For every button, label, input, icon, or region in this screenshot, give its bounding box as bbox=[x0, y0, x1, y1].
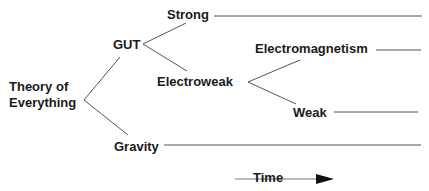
edge-electroweak-electromagnetism bbox=[248, 60, 300, 82]
label-gravity: Gravity bbox=[114, 140, 159, 154]
label-everything: Everything bbox=[9, 96, 76, 110]
edge-gut-strong bbox=[143, 23, 186, 44]
time-arrow-head-icon bbox=[316, 174, 334, 184]
label-time-axis: Time bbox=[253, 171, 283, 185]
edge-toe-gravity bbox=[84, 100, 128, 135]
label-theory-of: Theory of bbox=[9, 80, 68, 94]
label-electromagnetism: Electromagnetism bbox=[255, 42, 368, 56]
label-electroweak: Electroweak bbox=[157, 75, 233, 89]
edge-gut-electroweak bbox=[143, 44, 187, 71]
label-strong: Strong bbox=[167, 8, 209, 22]
label-gut: GUT bbox=[113, 38, 140, 52]
edge-toe-gut bbox=[84, 57, 120, 100]
edge-electroweak-weak bbox=[248, 82, 296, 104]
label-weak: Weak bbox=[293, 106, 327, 120]
